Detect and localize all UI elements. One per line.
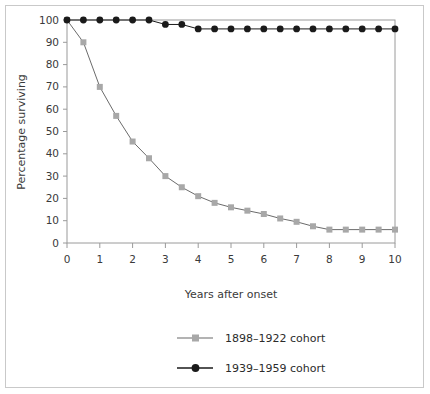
data-point-marker <box>261 211 267 217</box>
data-point-marker <box>326 26 333 33</box>
y-tick-label: 40 <box>46 147 59 159</box>
y-tick-label: 60 <box>46 103 59 115</box>
y-tick-label: 80 <box>46 58 59 70</box>
data-point-marker <box>162 173 168 179</box>
data-point-marker <box>212 200 218 206</box>
data-point-marker <box>376 227 382 233</box>
x-axis-ticks: 012345678910 <box>64 243 402 265</box>
data-point-marker <box>80 39 86 45</box>
data-point-marker <box>113 17 120 24</box>
y-tick-label: 70 <box>46 80 59 92</box>
data-point-marker <box>80 17 87 24</box>
x-tick-label: 9 <box>359 253 366 265</box>
data-point-marker <box>195 193 201 199</box>
y-tick-label: 10 <box>46 214 59 226</box>
data-point-marker <box>326 227 332 233</box>
x-tick-label: 8 <box>326 253 333 265</box>
y-tick-label: 0 <box>52 237 59 249</box>
data-point-marker <box>228 204 234 210</box>
y-tick-label: 100 <box>39 14 59 26</box>
data-point-marker <box>375 26 382 33</box>
x-axis-title: Years after onset <box>184 288 278 301</box>
data-point-marker <box>96 17 103 24</box>
y-tick-label: 50 <box>46 125 59 137</box>
data-point-marker <box>342 26 349 33</box>
data-point-marker <box>228 26 235 33</box>
data-point-marker <box>178 21 185 28</box>
data-point-marker <box>310 26 317 33</box>
data-point-marker <box>113 113 119 119</box>
data-point-marker <box>310 223 316 229</box>
data-point-marker <box>97 84 103 90</box>
x-tick-label: 10 <box>388 253 401 265</box>
x-tick-label: 0 <box>64 253 71 265</box>
chart-legend: 1898–1922 cohort1939–1959 cohort <box>177 332 326 375</box>
x-tick-label: 5 <box>228 253 235 265</box>
y-tick-label: 90 <box>46 36 59 48</box>
legend-item-1[interactable]: 1898–1922 cohort <box>177 332 326 345</box>
data-point-marker <box>359 26 366 33</box>
data-point-marker <box>294 219 300 225</box>
data-point-marker <box>129 17 136 24</box>
figure-container: 0102030405060708090100 012345678910 Perc… <box>0 0 430 394</box>
legend-label: 1939–1959 cohort <box>225 362 326 375</box>
x-tick-label: 3 <box>162 253 169 265</box>
data-point-marker <box>179 184 185 190</box>
data-point-marker <box>146 17 153 24</box>
data-point-marker <box>244 26 251 33</box>
data-point-marker <box>260 26 267 33</box>
x-tick-label: 7 <box>293 253 300 265</box>
legend-item-2[interactable]: 1939–1959 cohort <box>177 362 326 375</box>
data-point-marker <box>130 139 136 145</box>
data-point-marker <box>162 21 169 28</box>
data-point-marker <box>64 17 71 24</box>
data-point-marker <box>277 215 283 221</box>
y-tick-label: 30 <box>46 170 59 182</box>
data-point-marker <box>293 26 300 33</box>
data-point-marker <box>392 227 398 233</box>
data-point-marker <box>343 227 349 233</box>
legend-marker-square <box>192 335 199 342</box>
legend-marker-circle <box>192 364 200 372</box>
y-axis-ticks: 0102030405060708090100 <box>39 14 67 249</box>
x-tick-label: 4 <box>195 253 202 265</box>
survival-line-chart: 0102030405060708090100 012345678910 Perc… <box>0 0 430 394</box>
data-point-marker <box>392 26 399 33</box>
data-point-marker <box>146 155 152 161</box>
y-tick-label: 20 <box>46 192 59 204</box>
x-tick-label: 1 <box>96 253 103 265</box>
data-point-marker <box>359 227 365 233</box>
data-point-marker <box>211 26 218 33</box>
data-point-marker <box>277 26 284 33</box>
x-tick-label: 6 <box>260 253 267 265</box>
x-tick-label: 2 <box>129 253 136 265</box>
data-point-marker <box>244 208 250 214</box>
legend-label: 1898–1922 cohort <box>225 332 326 345</box>
data-point-marker <box>195 26 202 33</box>
y-axis-title: Percentage surviving <box>15 74 28 190</box>
